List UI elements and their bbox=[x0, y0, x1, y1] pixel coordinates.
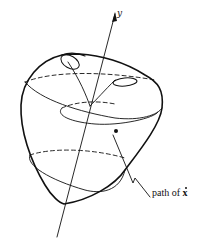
surface-outline bbox=[21, 54, 162, 204]
cusp-line-right bbox=[90, 80, 115, 106]
surface-diagram bbox=[0, 0, 206, 246]
path-annotation-prefix: path of bbox=[152, 187, 183, 198]
hidden-contour-1 bbox=[25, 74, 155, 83]
contour-2 bbox=[60, 108, 158, 124]
lobe-right bbox=[113, 77, 138, 87]
x-dot-symbol: x bbox=[183, 187, 188, 198]
path-annotation: path of x bbox=[152, 187, 188, 198]
y-axis-label: y bbox=[117, 8, 122, 18]
contour-1 bbox=[25, 82, 162, 119]
trajectory-point bbox=[114, 129, 118, 133]
